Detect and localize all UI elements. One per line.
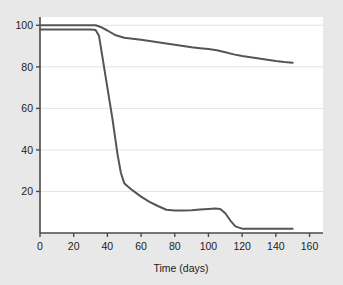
x-tick-label-140: 140 (267, 240, 285, 252)
x-tick-label-0: 0 (37, 240, 43, 252)
x-tick-label-80: 80 (169, 240, 181, 252)
y-tick-label-60: 60 (21, 102, 33, 114)
x-axis-title: Time (days) (153, 262, 208, 274)
x-axis-tick-labels: 020406080100120140160 (37, 240, 318, 252)
x-tick-label-60: 60 (135, 240, 147, 252)
chart-figure: 20406080100 020406080100120140160 Time (… (0, 0, 343, 285)
y-tick-label-80: 80 (21, 61, 33, 73)
y-tick-label-100: 100 (15, 19, 33, 31)
plot-area-background (40, 17, 323, 233)
x-tick-label-20: 20 (68, 240, 80, 252)
x-tick-label-100: 100 (200, 240, 218, 252)
y-tick-label-20: 20 (21, 185, 33, 197)
y-tick-label-40: 40 (21, 144, 33, 156)
x-tick-label-160: 160 (301, 240, 319, 252)
survival-curve-chart: 20406080100 020406080100120140160 Time (… (0, 0, 343, 285)
x-tick-label-120: 120 (233, 240, 251, 252)
x-tick-label-40: 40 (102, 240, 114, 252)
